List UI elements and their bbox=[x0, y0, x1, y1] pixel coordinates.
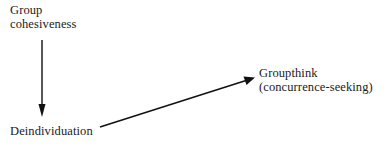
arrow-cohesion-to-deindividuation bbox=[39, 40, 46, 117]
arrow-deindividuation-to-groupthink bbox=[100, 77, 255, 128]
diagram-arrows bbox=[0, 0, 390, 146]
arrowhead-down-icon bbox=[39, 104, 46, 117]
arrowhead-up-right-icon bbox=[244, 77, 256, 86]
